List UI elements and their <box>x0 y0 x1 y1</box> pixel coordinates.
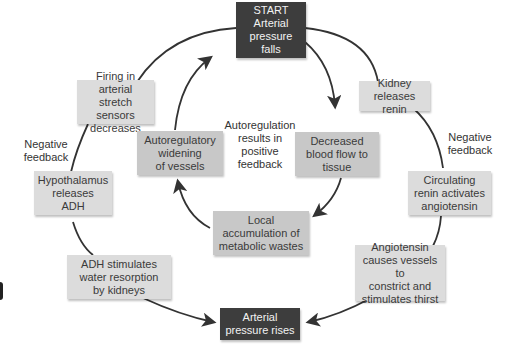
firing-box: Firing in arterial stretch sensors decre… <box>77 80 154 124</box>
local-accumulation-box: Local accumulation of metabolic wastes <box>213 211 309 255</box>
autoregulatory-widening-box: Autoregulatory widening of vessels <box>137 131 223 175</box>
angiotensin-box: Angiotensin causes vessels to constrict … <box>355 245 445 301</box>
hypothalamus-box: Hypothalamus releases ADH <box>34 171 112 215</box>
decreased-blood-flow-box: Decreased blood flow to tissue <box>295 132 379 176</box>
positive-feedback-label: Autoregulation results in positive feedb… <box>222 119 298 171</box>
kidney-box: Kidney releases renin <box>359 81 430 111</box>
adh-box: ADH stimulates water resorption by kidne… <box>67 255 171 299</box>
start-box: START Arterial pressure falls <box>236 2 306 58</box>
start-text: Arterial pressure falls <box>240 17 302 56</box>
end-box: Arterial pressure rises <box>220 308 300 340</box>
right-negative-feedback-label: Negative feedback <box>442 131 498 157</box>
left-negative-feedback-label: Negative feedback <box>18 138 74 164</box>
start-title: START <box>253 4 288 17</box>
renin-box: Circulating renin activates angiotensin <box>408 171 491 215</box>
edge-artifact <box>0 282 3 300</box>
